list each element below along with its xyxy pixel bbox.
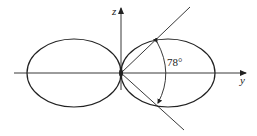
y-axis-label: y xyxy=(239,74,245,86)
z-axis-label: z xyxy=(111,5,117,17)
radiation-pattern-diagram: z y 78° xyxy=(0,0,257,136)
lower-beam-line xyxy=(121,73,184,130)
angle-arc xyxy=(157,42,166,103)
angle-label: 78° xyxy=(167,56,182,68)
